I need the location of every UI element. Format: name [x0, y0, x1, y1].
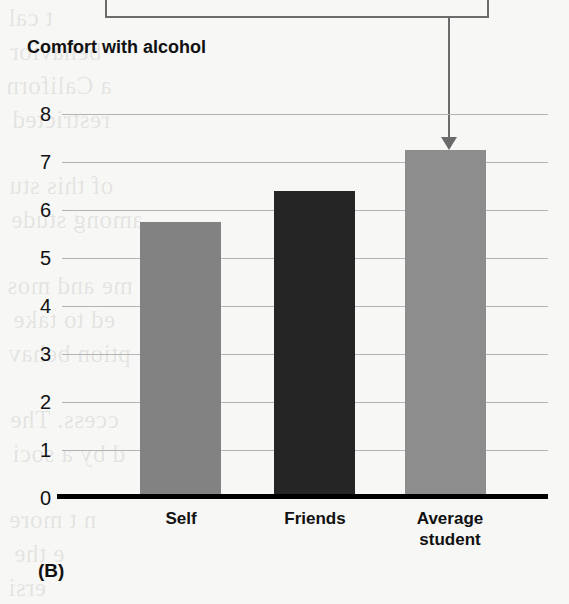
x-axis-label-average-student: Average student: [405, 508, 495, 551]
y-axis-tick-label: 8: [40, 103, 51, 126]
y-axis-tick-label: 1: [40, 439, 51, 462]
bar-friends: [274, 191, 355, 498]
y-axis-tick-label: 3: [40, 343, 51, 366]
y-axis-tick-label: 7: [40, 151, 51, 174]
panel-letter: (B): [38, 560, 64, 582]
x-axis-label-self: Self: [140, 508, 222, 529]
x-axis-line: [57, 494, 548, 499]
y-axis-tick-label: 0: [40, 487, 51, 510]
y-axis-tick-label: 5: [40, 247, 51, 270]
y-axis-tick-label: 6: [40, 199, 51, 222]
plot-area: 012345678: [62, 114, 548, 498]
callout-box: [105, 0, 489, 18]
bar-average-student: [405, 150, 486, 498]
x-axis-label-average-student-text: Average student: [417, 509, 483, 549]
gridline: [62, 114, 548, 115]
x-axis-label-friends: Friends: [274, 508, 356, 529]
bar-self: [140, 222, 221, 498]
y-axis-title: Comfort with alcohol: [27, 36, 207, 60]
background-bleed-text: n t more: [9, 506, 96, 534]
background-bleed-text: t cal: [8, 4, 53, 32]
figure-panel: t cal behavior a Californ restricted of …: [0, 0, 569, 604]
y-axis-tick-label: 2: [40, 391, 51, 414]
background-bleed-text: a Californ: [6, 72, 112, 100]
y-axis-tick-label: 4: [40, 295, 51, 318]
